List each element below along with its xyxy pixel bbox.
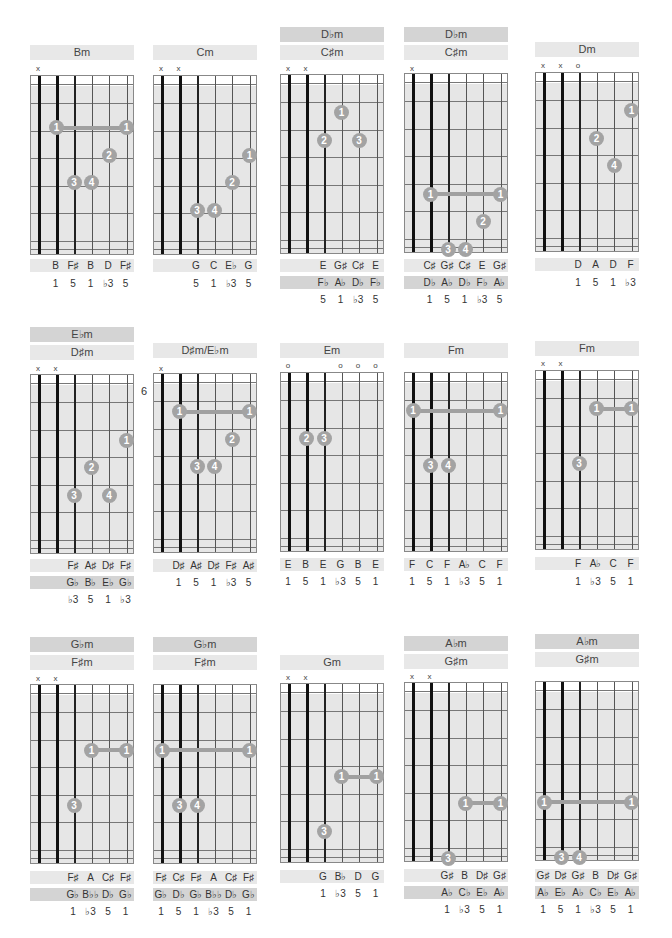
note-names-row: F♯AC♯F♯ xyxy=(30,871,134,884)
guitar-string-3 xyxy=(215,685,216,863)
fret-line xyxy=(281,711,383,712)
guitar-string-4 xyxy=(197,685,199,863)
note-name: E♭ xyxy=(604,886,622,899)
guitar-string-2 xyxy=(109,685,110,863)
barre-line xyxy=(544,800,632,804)
note-name: B♭♭ xyxy=(205,888,223,901)
fret-line xyxy=(154,795,256,796)
note-name: G♭ xyxy=(152,888,170,901)
guitar-string-3 xyxy=(92,685,93,863)
finger-dot-3: 3 xyxy=(441,851,456,866)
guitar-string-1 xyxy=(632,682,633,860)
note-name: C♭ xyxy=(587,886,605,899)
note-name: E♭ xyxy=(552,886,570,899)
guitar-string-1 xyxy=(501,683,502,861)
guitar-string-4 xyxy=(448,683,450,861)
fret-line xyxy=(536,819,638,820)
note-name: D♭ xyxy=(99,888,117,901)
chord-diagram-gbm2: G♭mF♯m1134F♯C♯F♯AC♯F♯G♭D♭G♭B♭♭D♭G♭151♭35… xyxy=(153,0,257,938)
scale-degree: ♭3 xyxy=(456,903,474,916)
note-name: G♯ xyxy=(491,869,509,882)
fret-line xyxy=(154,850,256,851)
guitar-string-6 xyxy=(543,682,546,860)
note-name: G♯ xyxy=(569,869,587,882)
scale-degree: 1 xyxy=(569,903,587,916)
fret-line xyxy=(536,690,638,691)
muted-string-icon: x xyxy=(51,674,61,683)
scale-degree: ♭3 xyxy=(205,905,223,918)
muted-string-icon: x xyxy=(283,673,293,682)
scale-degree: 5 xyxy=(473,903,491,916)
fret-line xyxy=(536,764,638,765)
note-name: C♯ xyxy=(170,871,188,884)
muted-string-icon: x xyxy=(425,672,435,681)
fret-line xyxy=(154,858,256,859)
scale-degree: 1 xyxy=(152,905,170,918)
scale-degree: 5 xyxy=(349,887,367,900)
finger-dot-1: 1 xyxy=(493,796,508,811)
fret-line xyxy=(405,691,507,692)
fret-line xyxy=(405,820,507,821)
string-marks xyxy=(153,674,257,684)
string-marks: xx xyxy=(30,674,134,684)
note-name: G♭ xyxy=(64,888,82,901)
guitar-string-5 xyxy=(179,685,182,863)
finger-dot-3: 3 xyxy=(554,850,569,865)
scale-degree: 1 xyxy=(187,905,205,918)
note-name: G♭ xyxy=(240,888,258,901)
muted-string-icon: x xyxy=(407,672,417,681)
scale-degree: 5 xyxy=(222,905,240,918)
note-names-enharmonic-row: G♭B♭♭D♭G♭ xyxy=(30,888,134,901)
note-name: D♯ xyxy=(604,869,622,882)
scale-degree: 1 xyxy=(367,887,385,900)
note-name: B xyxy=(456,869,474,882)
barre-line xyxy=(162,748,250,752)
note-name: G♯ xyxy=(622,869,640,882)
fret-line xyxy=(281,794,383,795)
guitar-string-4 xyxy=(579,682,581,860)
guitar-string-5 xyxy=(56,685,59,863)
fret-line xyxy=(536,855,638,856)
chord-diagram-gbm1: G♭mF♯mxx113F♯AC♯F♯G♭B♭♭D♭G♭1♭351 xyxy=(30,0,134,938)
finger-dot-3: 3 xyxy=(317,824,332,839)
note-names-enharmonic-row: A♭C♭E♭A♭ xyxy=(404,886,508,899)
chord-diagram-abm1: A♭mG♯mxx113G♯BD♯G♯A♭C♭E♭A♭1♭351 xyxy=(404,0,508,938)
fret-line xyxy=(281,849,383,850)
note-name: F♯ xyxy=(117,871,135,884)
finger-dot-1: 1 xyxy=(537,795,552,810)
note-name: A♭ xyxy=(569,886,587,899)
finger-dot-4: 4 xyxy=(190,798,205,813)
scale-degree-row: 1♭351 xyxy=(30,905,134,918)
finger-dot-1: 1 xyxy=(155,743,170,758)
scale-degree-row: 151♭351 xyxy=(153,905,257,918)
note-name: G♭ xyxy=(117,888,135,901)
scale-degree: 5 xyxy=(604,903,622,916)
note-name: D xyxy=(349,870,367,883)
note-name: G♯ xyxy=(438,869,456,882)
guitar-string-5 xyxy=(561,682,564,860)
note-name: B xyxy=(587,869,605,882)
scale-degree: 1 xyxy=(438,903,456,916)
note-names-row: G♯BD♯G♯ xyxy=(404,869,508,882)
fretboard-shading xyxy=(536,692,638,860)
note-name: A♭ xyxy=(491,886,509,899)
fret-line xyxy=(31,822,133,823)
note-names-enharmonic-row: G♭D♭G♭B♭♭D♭G♭ xyxy=(153,888,257,901)
fret-line xyxy=(536,847,638,848)
fret-line xyxy=(154,767,256,768)
guitar-string-5 xyxy=(430,683,433,861)
guitar-string-5 xyxy=(306,684,309,862)
finger-dot-3: 3 xyxy=(67,798,82,813)
chord-name-enharmonic: F♯m xyxy=(153,655,257,670)
note-name: A♭ xyxy=(438,886,456,899)
finger-dot-3: 3 xyxy=(172,798,187,813)
scale-degree: 1 xyxy=(534,903,552,916)
chord-name: A♭m xyxy=(404,636,508,651)
chord-name: Gm xyxy=(280,655,384,670)
note-name: A♭ xyxy=(534,886,552,899)
fret-line xyxy=(281,766,383,767)
note-name: C♯ xyxy=(222,871,240,884)
fretboard: 113 xyxy=(404,682,508,862)
fretboard: 1134 xyxy=(535,681,639,861)
scale-degree: 5 xyxy=(552,903,570,916)
